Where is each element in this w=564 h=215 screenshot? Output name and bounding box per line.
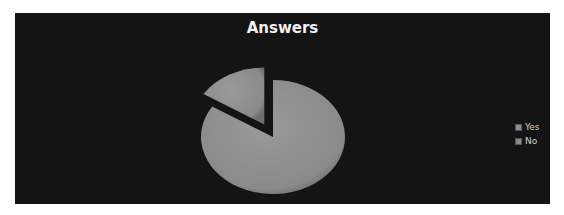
legend-label: No	[525, 136, 537, 146]
legend-item-yes[interactable]: Yes	[515, 120, 540, 134]
legend-label: Yes	[525, 122, 540, 132]
legend-swatch-yes	[515, 124, 522, 131]
pie-chart	[15, 13, 550, 204]
chart-area: Answers Yes No	[15, 13, 550, 204]
legend: Yes No	[515, 120, 540, 148]
legend-item-no[interactable]: No	[515, 134, 540, 148]
legend-swatch-no	[515, 138, 522, 145]
